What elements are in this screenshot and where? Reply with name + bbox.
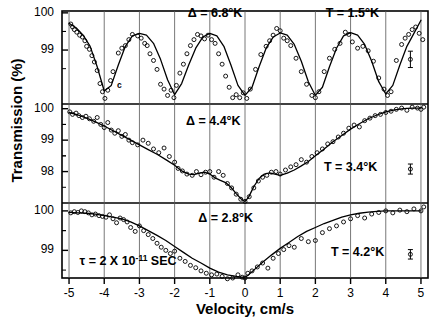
data-point-middle [289, 165, 293, 169]
xtick-label-3: 3 [340, 286, 362, 300]
plot-canvas: cΔ = 6.8°KT = 1.5°KΔ = 4.4°KT = 3.4°KΔ =… [0, 0, 446, 331]
annotation-middle-temperature: T = 3.4°K [324, 160, 377, 174]
data-point-middle [157, 151, 161, 155]
data-point-bottom [363, 216, 367, 220]
data-point-bottom [155, 241, 159, 245]
stray-marker-label: c [117, 80, 122, 90]
data-point-middle [152, 147, 156, 151]
ytick-label-middle-98: 98 [20, 164, 54, 178]
data-point-bottom [178, 256, 182, 260]
data-point-top [231, 96, 235, 100]
data-point-top [178, 71, 182, 75]
data-point-middle [167, 154, 171, 158]
xtick-label--5: -5 [58, 286, 80, 300]
annotation-tau-prefix: τ = 2 X 10 [80, 254, 136, 268]
annotation-bottom-temperature: T = 4.2°K [331, 245, 384, 259]
data-point-bottom [287, 244, 291, 248]
ytick-label-top-100: 100 [20, 5, 54, 19]
data-point-bottom [204, 271, 208, 275]
ytick-label-middle-99: 99 [20, 132, 54, 146]
annotation-top-delta: Δ = 6.8°K [188, 6, 243, 20]
data-point-middle [299, 158, 303, 162]
data-point-top [400, 42, 404, 46]
data-point-top [148, 52, 152, 56]
data-point-middle [123, 132, 127, 136]
annotation-bottom-delta: Δ = 2.8°K [198, 211, 253, 225]
data-point-middle [422, 105, 426, 109]
data-point-middle [357, 125, 361, 129]
data-point-bottom [151, 237, 155, 241]
data-point-middle [221, 173, 225, 177]
data-point-bottom [299, 237, 303, 241]
data-point-bottom [142, 229, 146, 233]
xtick-label--3: -3 [128, 286, 150, 300]
data-point-middle [194, 170, 198, 174]
data-point-middle [217, 170, 221, 174]
data-point-bottom [370, 212, 374, 216]
data-point-top [259, 53, 263, 57]
data-point-top [185, 52, 189, 56]
data-point-top [220, 62, 224, 66]
data-point-bottom [133, 229, 137, 233]
ytick-label-bottom-99: 99 [20, 242, 54, 256]
xtick-label-2: 2 [304, 286, 326, 300]
data-point-top [224, 74, 228, 78]
data-point-bottom [306, 240, 310, 244]
data-point-middle [106, 121, 110, 125]
data-point-top [356, 46, 360, 50]
xtick-label--2: -2 [164, 286, 186, 300]
data-point-middle [146, 141, 150, 145]
ytick-label-top-99: 99 [20, 42, 54, 56]
ytick-label-bottom-100: 100 [20, 203, 54, 217]
xtick-label--1: -1 [199, 286, 221, 300]
data-point-top [294, 56, 298, 60]
xtick-label--4: -4 [93, 286, 115, 300]
data-point-middle [116, 129, 120, 133]
data-point-top [109, 79, 113, 83]
data-point-top [172, 96, 176, 100]
data-point-bottom [282, 248, 286, 252]
data-point-top [145, 44, 149, 48]
data-point-bottom [266, 266, 270, 270]
annotation-tau-exponent: -11 [136, 253, 148, 263]
data-point-top [213, 41, 217, 45]
data-point-top [217, 52, 221, 56]
data-point-top [227, 85, 231, 89]
data-point-bottom [129, 225, 133, 229]
data-point-top [361, 44, 365, 48]
data-point-top [285, 39, 289, 43]
data-point-top [203, 37, 207, 41]
data-point-top [305, 82, 309, 86]
xtick-label-5: 5 [410, 286, 432, 300]
data-point-bottom [199, 269, 203, 273]
data-point-bottom [327, 227, 331, 231]
data-point-bottom [146, 233, 150, 237]
data-point-bottom [194, 266, 198, 270]
data-point-top [407, 32, 411, 36]
annotation-top-temperature: T = 1.5°K [326, 6, 379, 20]
xtick-label-0: 0 [234, 286, 256, 300]
figure-root: Transmission (%) Velocity, cm/s cΔ = 6.8… [0, 0, 446, 331]
data-point-bottom [159, 245, 163, 249]
data-point-top [327, 56, 331, 60]
xtick-label-1: 1 [269, 286, 291, 300]
annotation-tau: τ = 2 X 10-11 SEC [80, 253, 177, 269]
data-point-top [234, 93, 238, 97]
data-point-top [162, 87, 166, 91]
data-point-top [389, 90, 393, 94]
data-point-bottom [183, 259, 187, 263]
data-point-middle [294, 163, 298, 167]
xtick-label-4: 4 [375, 286, 397, 300]
data-point-top [254, 67, 258, 71]
annotation-tau-suffix: SEC [147, 254, 176, 268]
data-point-middle [274, 170, 278, 174]
data-point-middle [283, 168, 287, 172]
data-point-top [152, 58, 156, 62]
data-point-top [299, 70, 303, 74]
data-point-middle [95, 116, 99, 120]
data-point-bottom [292, 245, 296, 249]
data-point-bottom [422, 205, 426, 209]
data-point-top [116, 51, 120, 55]
data-point-top [111, 70, 115, 74]
data-point-top [394, 58, 398, 62]
